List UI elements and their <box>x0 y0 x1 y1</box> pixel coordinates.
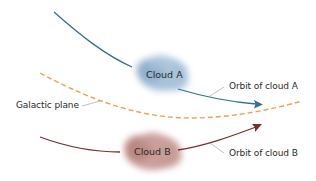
orbit-b-line-out <box>178 127 256 150</box>
orbit-a-label: Orbit of cloud A <box>229 82 298 91</box>
cloud-b-label: Cloud B <box>134 147 171 157</box>
leader-galactic-plane <box>82 101 100 106</box>
galactic-plane-label: Galactic plane <box>16 101 79 110</box>
orbit-a-line-in <box>54 12 132 67</box>
orbit-b-label: Orbit of cloud B <box>229 149 298 158</box>
orbit-b-line-in <box>40 137 120 152</box>
cloud-a-label: Cloud A <box>146 70 183 80</box>
leader-orbit-a <box>210 87 224 96</box>
leader-orbit-b <box>210 143 224 153</box>
